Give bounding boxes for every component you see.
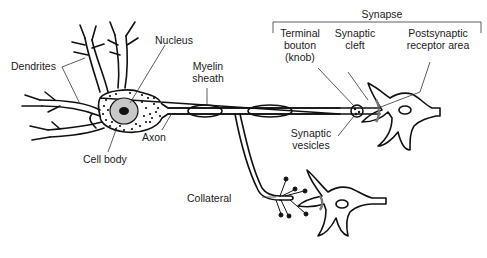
label-collateral: Collateral	[187, 192, 231, 204]
label-synaptic-cleft: Synaptic cleft	[330, 27, 380, 51]
label-synaptic-vesicles: Synaptic vesicles	[286, 127, 336, 151]
myelin-sheath-1	[188, 105, 222, 117]
postsynaptic-neuron-bottom	[298, 170, 386, 236]
label-axon: Axon	[142, 131, 166, 143]
nucleolus-shape	[119, 107, 129, 115]
collateral-terminals	[276, 177, 308, 218]
label-myelin-sheath: Myelin sheath	[188, 60, 228, 84]
label-nucleus: Nucleus	[155, 34, 193, 46]
label-dendrites: Dendrites	[11, 60, 56, 72]
terminal-bouton	[351, 105, 363, 117]
label-synapse: Synapse	[352, 8, 412, 20]
label-cell-body: Cell body	[83, 153, 127, 165]
postsynaptic-neuron-top	[362, 83, 440, 150]
label-terminal-bouton: Terminal bouton (knob)	[275, 27, 325, 63]
neuron-diagram: Dendrites Nucleus Myelin sheath Axon Cel…	[0, 0, 487, 258]
collateral-branch	[235, 114, 280, 200]
label-postsynaptic-receptor-area: Postsynaptic receptor area	[398, 27, 478, 51]
